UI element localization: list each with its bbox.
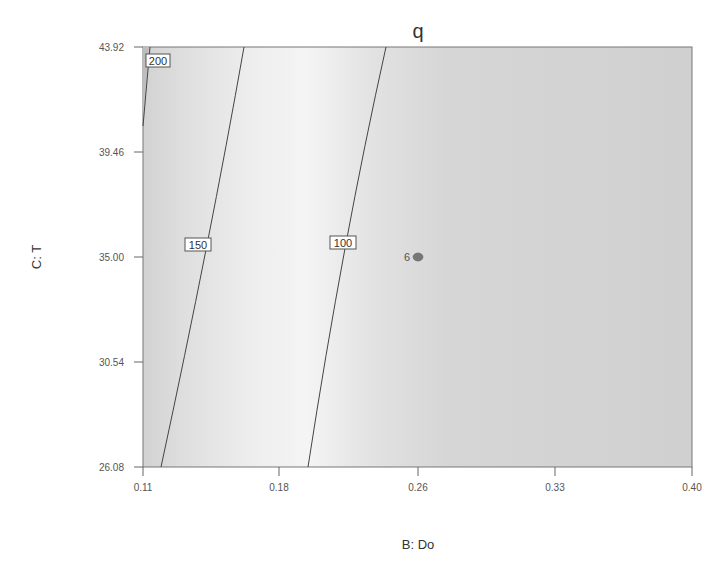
- contour-label-150: 150: [185, 238, 211, 251]
- x-axis-title: B: Do: [402, 537, 435, 552]
- y-axis: 43.92 39.46 35.00 30.54 26.08: [99, 42, 143, 473]
- contour-label-100-text: 100: [334, 237, 352, 249]
- x-tick-label: 0.18: [269, 482, 289, 493]
- contour-label-200-text: 200: [149, 55, 167, 67]
- contour-label-100: 100: [330, 236, 356, 249]
- design-point-label: 6: [404, 251, 410, 263]
- x-tick-label: 0.26: [408, 482, 428, 493]
- chart-title: q: [412, 20, 423, 42]
- y-tick-label: 43.92: [99, 42, 124, 53]
- x-tick-label: 0.33: [545, 482, 565, 493]
- x-tick-label: 0.40: [682, 482, 702, 493]
- contour-chart: q 200 150 100 6 43.92 39.46 35.00: [0, 0, 724, 578]
- y-tick-label: 30.54: [99, 357, 124, 368]
- y-tick-label: 26.08: [99, 462, 124, 473]
- y-tick-label: 35.00: [99, 252, 124, 263]
- x-axis: 0.11 0.18 0.26 0.33 0.40: [134, 467, 703, 493]
- y-tick-label: 39.46: [99, 147, 124, 158]
- contour-label-150-text: 150: [189, 239, 207, 251]
- x-tick-label: 0.11: [134, 482, 153, 493]
- design-point-marker: [413, 253, 423, 261]
- y-axis-title: C: T: [29, 245, 44, 269]
- contour-label-200: 200: [146, 54, 170, 67]
